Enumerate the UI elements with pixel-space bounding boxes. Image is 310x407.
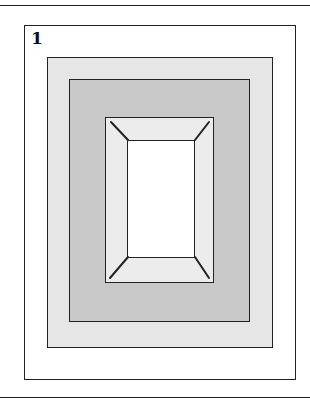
frame-bevel-lines [0, 0, 310, 407]
bottom-rule [0, 397, 310, 398]
